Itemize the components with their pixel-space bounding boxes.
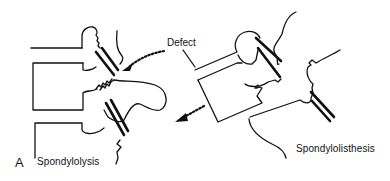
spondylolisthesis-pars-lines — [256, 38, 334, 121]
spondylolysis-pars-lines — [96, 48, 128, 135]
spondylolisthesis-label: Spondylolisthesis — [296, 143, 375, 154]
slippage-arrow — [175, 106, 204, 122]
spondylolysis-diagram — [31, 27, 166, 164]
spondylolysis-label: Spondylolysis — [37, 156, 99, 167]
spondylolisthesis-diagram — [195, 12, 340, 158]
spine-diagram-figure: A Spondylolysis Spondylolisthesis Defect — [0, 0, 390, 181]
defect-arrow — [122, 51, 164, 71]
defect-pointer-line — [183, 50, 195, 67]
panel-letter: A — [15, 155, 24, 170]
defect-label: Defect — [167, 37, 196, 48]
